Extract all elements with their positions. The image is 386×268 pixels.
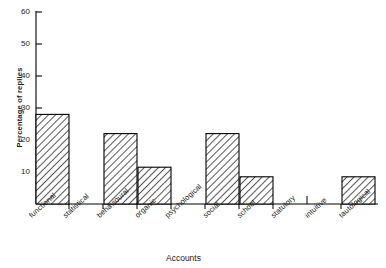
bar-school: [240, 177, 273, 204]
bar-chart: 60 50 40 30 20 10 functional statistical…: [0, 0, 386, 268]
chart-canvas: [0, 0, 386, 268]
x-axis-title: Accounts: [166, 253, 201, 263]
y-tick-label-60: 60: [8, 8, 30, 16]
bar-social: [206, 134, 239, 204]
bar-series: [36, 114, 375, 204]
y-axis-title: Percentage of replies: [15, 43, 24, 173]
bar-functional: [36, 114, 69, 204]
